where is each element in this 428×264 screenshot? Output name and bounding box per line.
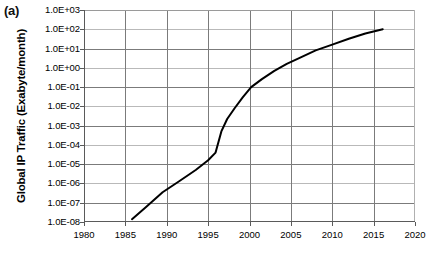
x-tick-label: 2015 <box>354 230 394 240</box>
y-tick-mark <box>80 87 84 88</box>
x-tick-mark <box>332 222 333 226</box>
y-tick-label: 1.0E-01 <box>47 82 80 92</box>
y-tick-mark <box>80 126 84 127</box>
y-tick-label: 1.0E-07 <box>47 198 80 208</box>
y-tick-mark <box>80 164 84 165</box>
y-tick-mark <box>80 68 84 69</box>
y-tick-label: 1.0E-02 <box>47 101 80 111</box>
y-tick-label: 1.0E-08 <box>47 217 80 227</box>
x-tick-label: 1995 <box>188 230 228 240</box>
x-tick-label: 2005 <box>271 230 311 240</box>
y-axis-title: Global IP Traffic (Exabyte/month) <box>10 10 32 222</box>
x-tick-mark <box>374 222 375 226</box>
x-tick-label: 1985 <box>105 230 145 240</box>
y-tick-label: 1.0E-05 <box>47 159 80 169</box>
plot-area <box>84 10 415 222</box>
x-tick-label: 2020 <box>395 230 428 240</box>
x-tick-mark <box>250 222 251 226</box>
y-axis-tick-labels: 1.0E+031.0E+021.0E+011.0E+001.0E-011.0E-… <box>34 10 80 222</box>
y-tick-label: 1.0E-04 <box>47 140 80 150</box>
x-tick-label: 1990 <box>147 230 187 240</box>
y-tick-label: 1.0E-03 <box>47 121 80 131</box>
y-tick-label: 1.0E+01 <box>45 44 80 54</box>
y-tick-mark <box>80 106 84 107</box>
y-tick-mark <box>80 29 84 30</box>
x-tick-mark <box>167 222 168 226</box>
x-tick-label: 2000 <box>230 230 270 240</box>
y-tick-label: 1.0E+02 <box>45 24 80 34</box>
x-tick-label: 2010 <box>312 230 352 240</box>
y-axis-title-text: Global IP Traffic (Exabyte/month) <box>15 29 27 203</box>
y-tick-mark <box>80 10 84 11</box>
x-tick-mark <box>84 222 85 226</box>
data-series-line <box>84 10 415 222</box>
x-tick-label: 1980 <box>64 230 104 240</box>
y-tick-label: 1.0E+00 <box>45 63 80 73</box>
x-tick-mark <box>415 222 416 226</box>
y-tick-mark <box>80 49 84 50</box>
x-axis-tick-labels: 198019851990199520002005201020152020 <box>84 230 415 244</box>
x-tick-mark <box>125 222 126 226</box>
y-tick-mark <box>80 183 84 184</box>
y-tick-mark <box>80 145 84 146</box>
x-tick-mark <box>208 222 209 226</box>
y-tick-mark <box>80 203 84 204</box>
y-tick-label: 1.0E+03 <box>45 5 80 15</box>
x-tick-mark <box>291 222 292 226</box>
y-tick-label: 1.0E-06 <box>47 178 80 188</box>
